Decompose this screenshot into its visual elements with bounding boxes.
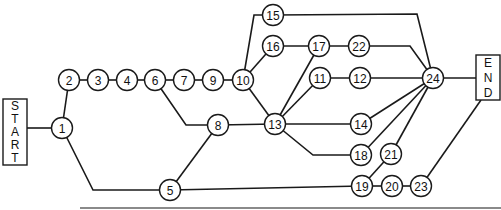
- terminal-letter: N: [484, 71, 493, 85]
- end-terminal[interactable]: END END: [476, 55, 500, 100]
- node-23[interactable]: 23: [411, 176, 432, 197]
- edges-layer: [27, 14, 481, 190]
- terminal-letter: D: [484, 86, 493, 100]
- node-label: 22: [352, 40, 366, 54]
- node-5[interactable]: 5: [160, 180, 181, 201]
- node-6[interactable]: 6: [145, 70, 166, 91]
- node-label: 13: [268, 118, 282, 132]
- node-21[interactable]: 21: [381, 144, 402, 165]
- node-8[interactable]: 8: [208, 115, 229, 136]
- terminal-letter: T: [11, 151, 19, 165]
- node-label: 21: [384, 148, 398, 162]
- edge-5-19: [170, 186, 362, 190]
- node-label: 23: [414, 180, 428, 194]
- node-20[interactable]: 20: [382, 176, 403, 197]
- node-2[interactable]: 2: [59, 70, 80, 91]
- node-4[interactable]: 4: [117, 70, 138, 91]
- node-13[interactable]: 13: [265, 114, 286, 135]
- node-label: 7: [181, 74, 188, 88]
- node-1[interactable]: 1: [52, 118, 73, 139]
- terminal-letter: A: [11, 125, 19, 139]
- node-label: 4: [124, 74, 131, 88]
- edge-1-5: [62, 128, 170, 190]
- node-label: 9: [210, 74, 217, 88]
- node-label: 17: [312, 40, 326, 54]
- node-14[interactable]: 14: [351, 114, 372, 135]
- terminal-letter: R: [11, 138, 20, 152]
- node-22[interactable]: 22: [349, 36, 370, 57]
- node-label: 19: [355, 180, 369, 194]
- node-label: 10: [236, 74, 250, 88]
- start-terminal[interactable]: START START: [3, 99, 27, 166]
- node-label: 2: [66, 74, 73, 88]
- node-15[interactable]: 15: [263, 5, 284, 26]
- node-16[interactable]: 16: [263, 36, 284, 57]
- node-18[interactable]: 18: [351, 145, 372, 166]
- node-label: 20: [385, 180, 399, 194]
- node-label: 1: [59, 122, 66, 136]
- node-label: 16: [266, 40, 280, 54]
- node-label: 6: [152, 74, 159, 88]
- edge-23-end: [421, 100, 481, 186]
- node-label: 5: [167, 184, 174, 198]
- node-12[interactable]: 12: [350, 68, 371, 89]
- node-label: 24: [426, 72, 440, 86]
- node-9[interactable]: 9: [203, 70, 224, 91]
- node-17[interactable]: 17: [309, 36, 330, 57]
- edge-13-18: [275, 124, 361, 155]
- node-label: 18: [354, 149, 368, 163]
- node-label: 15: [266, 9, 280, 23]
- node-label: 12: [353, 72, 367, 86]
- terminal-letter: E: [484, 56, 492, 70]
- node-10[interactable]: 10: [233, 70, 254, 91]
- terminal-letter: S: [11, 99, 19, 113]
- node-7[interactable]: 7: [174, 70, 195, 91]
- node-11[interactable]: 11: [310, 68, 331, 89]
- node-label: 11: [314, 72, 327, 86]
- node-19[interactable]: 19: [352, 176, 373, 197]
- edge-5-8: [170, 125, 218, 190]
- node-label: 14: [354, 118, 368, 132]
- terminal-letter: T: [11, 112, 19, 126]
- node-24[interactable]: 24: [423, 68, 444, 89]
- network-diagram: START START END END 12346791058131516172…: [0, 0, 501, 210]
- node-3[interactable]: 3: [88, 70, 109, 91]
- node-label: 8: [215, 119, 222, 133]
- nodes-layer: 123467910581315161722111214182119202324: [52, 5, 444, 201]
- node-label: 3: [95, 74, 102, 88]
